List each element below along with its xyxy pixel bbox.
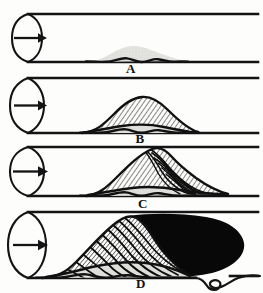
panel-label-b: B bbox=[135, 131, 144, 146]
panel-label-c: C bbox=[138, 196, 148, 211]
panel-label-d: D bbox=[136, 276, 146, 291]
figure-root: A B bbox=[0, 0, 263, 293]
panel-label-a: A bbox=[126, 61, 136, 76]
deposit-progression-diagram: A B bbox=[0, 0, 263, 293]
